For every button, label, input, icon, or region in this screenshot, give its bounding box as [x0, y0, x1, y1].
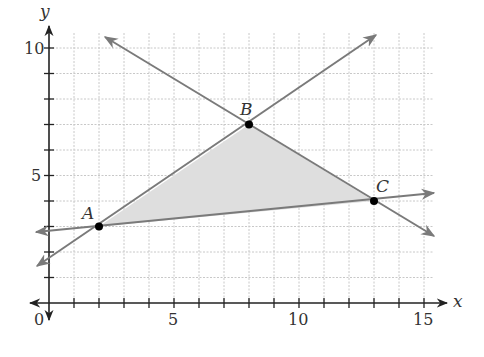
x-tick-15: 15	[413, 310, 433, 329]
coordinate-plane-figure: A B C x y 0 5 10 15 5 10	[0, 0, 484, 357]
x-tick-0: 0	[34, 310, 44, 329]
point-b-label: B	[239, 99, 253, 119]
point-c-label: C	[376, 176, 389, 196]
x-tick-10: 10	[288, 310, 308, 329]
x-tick-5: 5	[168, 310, 178, 329]
x-axis-label: x	[453, 291, 463, 311]
y-axis-label: y	[39, 1, 50, 21]
y-tick-10: 10	[24, 39, 44, 58]
point-a-label: A	[80, 203, 94, 223]
y-tick-5: 5	[31, 166, 41, 185]
point-b	[245, 121, 253, 129]
point-a	[95, 223, 103, 231]
point-c	[370, 197, 378, 205]
chart-svg: A B C x y 0 5 10 15 5 10	[0, 0, 484, 357]
